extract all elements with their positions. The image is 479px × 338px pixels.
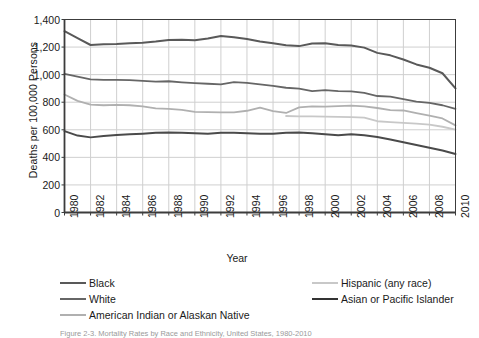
- x-tick-label: 1990: [199, 194, 210, 217]
- x-tick-label: 2006: [408, 194, 419, 217]
- x-tick-label: 1986: [147, 194, 158, 217]
- x-tick-label: 1996: [278, 194, 289, 217]
- legend-line-swatch: [60, 282, 86, 284]
- legend-label: Asian or Pacific Islander: [341, 293, 454, 305]
- x-tick-label: 1982: [95, 194, 106, 217]
- x-tick-label: 2002: [356, 194, 367, 217]
- figure-caption: Figure 2-3. Mortality Rates by Race and …: [60, 329, 479, 338]
- legend-item: White: [60, 292, 116, 306]
- chart-legend: BlackWhiteAmerican Indian or Alaskan Nat…: [60, 276, 472, 322]
- x-tick-label: 1980: [69, 194, 80, 217]
- x-tick-label: 1992: [225, 194, 236, 217]
- legend-line-swatch: [60, 298, 86, 300]
- x-tick-label: 1994: [251, 194, 262, 217]
- x-tick-label: 2004: [382, 194, 393, 217]
- legend-item: Hispanic (any race): [312, 276, 431, 290]
- legend-item: Black: [60, 276, 115, 290]
- legend-line-swatch: [60, 314, 86, 316]
- legend-label: American Indian or Alaskan Native: [89, 309, 250, 321]
- x-tick-label: 1988: [173, 194, 184, 217]
- legend-item: Asian or Pacific Islander: [312, 292, 454, 306]
- legend-label: White: [89, 293, 116, 305]
- x-tick-label: 1984: [121, 194, 132, 217]
- legend-item: American Indian or Alaskan Native: [60, 308, 250, 322]
- x-tick-label: 1998: [304, 194, 315, 217]
- x-tick-label: 2010: [460, 194, 471, 217]
- legend-label: Black: [89, 277, 115, 289]
- x-tick-label: 2008: [434, 194, 445, 217]
- legend-line-swatch: [312, 298, 338, 300]
- x-axis-title: Year: [197, 252, 277, 264]
- legend-line-swatch: [312, 282, 338, 284]
- legend-label: Hispanic (any race): [341, 277, 431, 289]
- x-tick-label: 2000: [330, 194, 341, 217]
